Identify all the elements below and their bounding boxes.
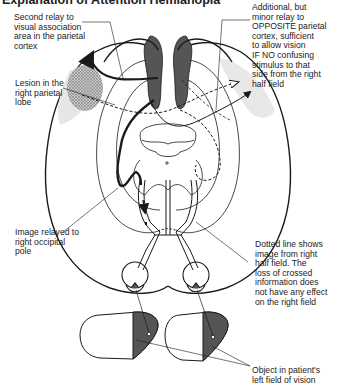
left-eye — [122, 262, 148, 292]
left-visual-cortex — [144, 36, 162, 109]
optic-radiation-left — [117, 100, 154, 186]
left-eye-visual-field — [80, 312, 158, 359]
label-second-relay: Second relay to visual association area … — [14, 13, 85, 51]
label-lesion: Lesion in the right parietal lobe — [15, 79, 64, 108]
label-dotted-line: Dotted line shows image from right half … — [255, 240, 327, 307]
minor-relay-solid — [150, 92, 250, 126]
label-object: Object in patient's left field of vision — [252, 366, 320, 385]
optic-radiation-right-dashed — [180, 110, 220, 180]
label-additional-relay: Additional, but minor relay to OPPOSITE … — [252, 3, 327, 89]
lesion-area — [67, 65, 103, 111]
label-image-relayed: Image relayed to right occipital pole — [15, 228, 79, 257]
right-eye — [183, 262, 209, 292]
right-visual-cortex — [174, 36, 192, 109]
